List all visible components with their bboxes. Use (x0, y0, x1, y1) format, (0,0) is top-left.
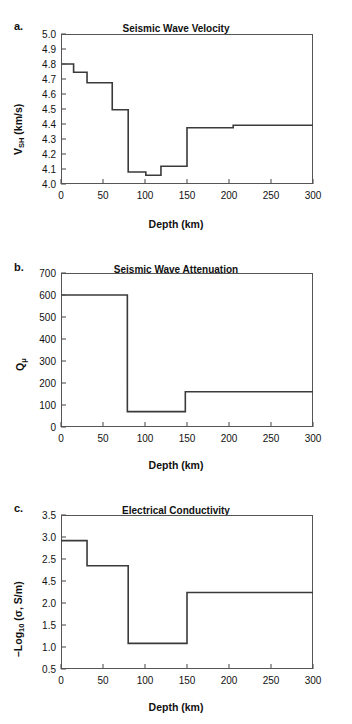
y-tick-label: 5.0 (18, 29, 56, 40)
x-tick-label: 100 (137, 433, 154, 444)
y-tick-label: 3.5 (18, 510, 56, 521)
data-series-line (61, 541, 313, 644)
y-tick-label: 700 (18, 268, 56, 279)
data-series-line (61, 295, 313, 412)
y-tick-label: 0 (18, 422, 56, 433)
y-tick-label: 4.0 (18, 179, 56, 190)
y-tick-label: 1.0 (18, 642, 56, 653)
figure-seismic-electrical-profiles: a. Seismic Wave Velocity VSH (km/s) 5.04… (0, 0, 352, 724)
y-tick-label: 4.8 (18, 59, 56, 70)
x-tick-label: 200 (221, 190, 238, 201)
x-tick-label: 200 (221, 433, 238, 444)
y-tick-label: 2.0 (18, 598, 56, 609)
data-series-line (61, 64, 313, 175)
x-tick-label: 150 (179, 433, 196, 444)
x-tick-label: 100 (137, 675, 154, 686)
x-tick-label: 100 (137, 190, 154, 201)
x-tick-label: 250 (263, 433, 280, 444)
x-tick-label: 300 (305, 675, 322, 686)
x-tick-label: 50 (97, 190, 108, 201)
y-tick-label: 1.5 (18, 620, 56, 631)
y-tick-label: 4.6 (18, 89, 56, 100)
y-tick-label: 600 (18, 290, 56, 301)
panel-a-seismic-wave-velocity: a. Seismic Wave Velocity VSH (km/s) 5.04… (0, 0, 352, 241)
x-tick-label: 250 (263, 190, 280, 201)
x-tick-label: 200 (221, 675, 238, 686)
y-tick-label: 4.1 (18, 164, 56, 175)
y-tick-label: 3.0 (18, 532, 56, 543)
x-tick-label: 300 (305, 190, 322, 201)
x-tick-label: 150 (179, 675, 196, 686)
panel-b-x-axis-title: Depth (km) (0, 459, 352, 471)
x-tick-label: 300 (305, 433, 322, 444)
x-tick-label: 250 (263, 675, 280, 686)
x-tick-label: 50 (97, 675, 108, 686)
y-tick-label: 300 (18, 356, 56, 367)
panel-b-seismic-wave-attenuation: b. Seismic Wave Attenuation Qμ 700600500… (0, 241, 352, 482)
y-tick-label: 4.4 (18, 119, 56, 130)
x-tick-label: 0 (58, 675, 64, 686)
x-tick-label: 0 (58, 433, 64, 444)
y-tick-label: 4.7 (18, 74, 56, 85)
y-tick-label: 200 (18, 378, 56, 389)
y-tick-label: 4.5 (18, 576, 56, 587)
x-tick-label: 50 (97, 433, 108, 444)
y-tick-label: 400 (18, 334, 56, 345)
y-tick-label: 500 (18, 312, 56, 323)
panel-a-x-axis-title: Depth (km) (0, 218, 352, 230)
panel-c-electrical-conductivity: c. Electrical Conductivity –Log10 (σ, S/… (0, 482, 352, 724)
y-tick-label: 4.9 (18, 44, 56, 55)
y-tick-label: 4.3 (18, 134, 56, 145)
y-tick-label: 2.5 (18, 554, 56, 565)
y-tick-label: 100 (18, 400, 56, 411)
x-tick-label: 0 (58, 190, 64, 201)
x-tick-label: 150 (179, 190, 196, 201)
y-tick-label: 4.2 (18, 149, 56, 160)
panel-c-x-axis-title: Depth (km) (0, 701, 352, 713)
y-tick-label: 4.5 (18, 104, 56, 115)
y-tick-label: 0.5 (18, 664, 56, 675)
